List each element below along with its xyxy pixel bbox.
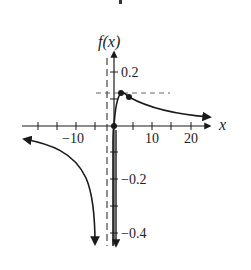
origin-point bbox=[111, 123, 117, 129]
y-tick-label-0.2: 0.2 bbox=[121, 66, 139, 80]
inflection-point bbox=[126, 94, 132, 100]
x-tick-label-10: 10 bbox=[145, 132, 159, 146]
maximum-point bbox=[118, 90, 124, 96]
left-branch-curve bbox=[24, 139, 95, 244]
x-axis-label: x bbox=[219, 117, 226, 133]
y-axis-label: f(x) bbox=[98, 34, 120, 50]
x-tick-label-20: 20 bbox=[184, 132, 198, 146]
y-axis bbox=[110, 52, 118, 244]
y-tick-label-neg-0.2: −0.2 bbox=[121, 173, 146, 187]
x-tick-label-neg-10: −10 bbox=[62, 132, 84, 146]
y-tick-label-neg-0.4: −0.4 bbox=[121, 227, 146, 241]
right-branch-curve bbox=[113, 92, 210, 246]
